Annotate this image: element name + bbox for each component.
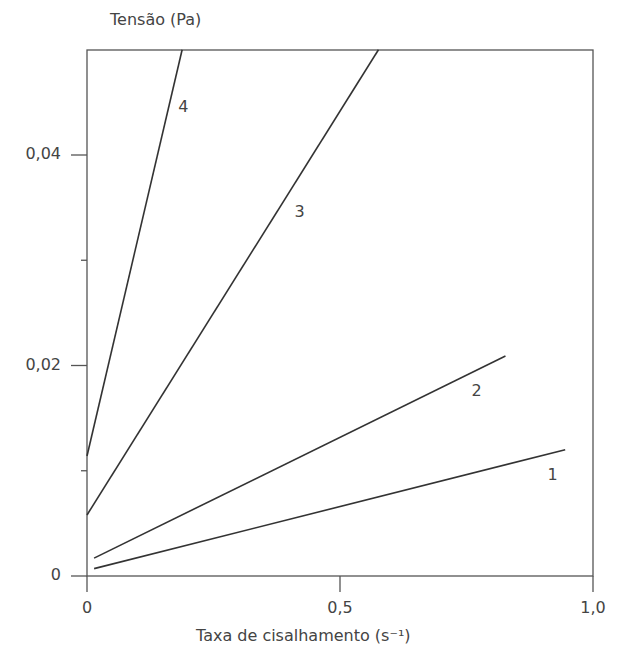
chart-canvas	[0, 0, 628, 672]
data-series	[87, 50, 565, 569]
y-tick-label: 0,04	[1, 144, 61, 163]
x-tick-label: 0,5	[310, 598, 370, 617]
y-tick-label: 0,02	[1, 355, 61, 374]
series-label-3: 3	[295, 202, 305, 221]
x-tick-label: 0	[57, 598, 117, 617]
series-line-2	[94, 356, 505, 558]
series-line-1	[94, 450, 565, 569]
axis-ticks	[71, 155, 593, 592]
y-axis-title: Tensão (Pa)	[110, 10, 201, 29]
series-label-2: 2	[472, 381, 482, 400]
series-label-1: 1	[548, 465, 558, 484]
series-line-3	[87, 50, 378, 515]
series-label-4: 4	[178, 97, 188, 116]
x-tick-label: 1,0	[563, 598, 623, 617]
x-axis-title: Taxa de cisalhamento (s⁻¹)	[196, 626, 411, 645]
y-tick-label: 0	[1, 565, 61, 584]
series-line-4	[87, 50, 182, 456]
